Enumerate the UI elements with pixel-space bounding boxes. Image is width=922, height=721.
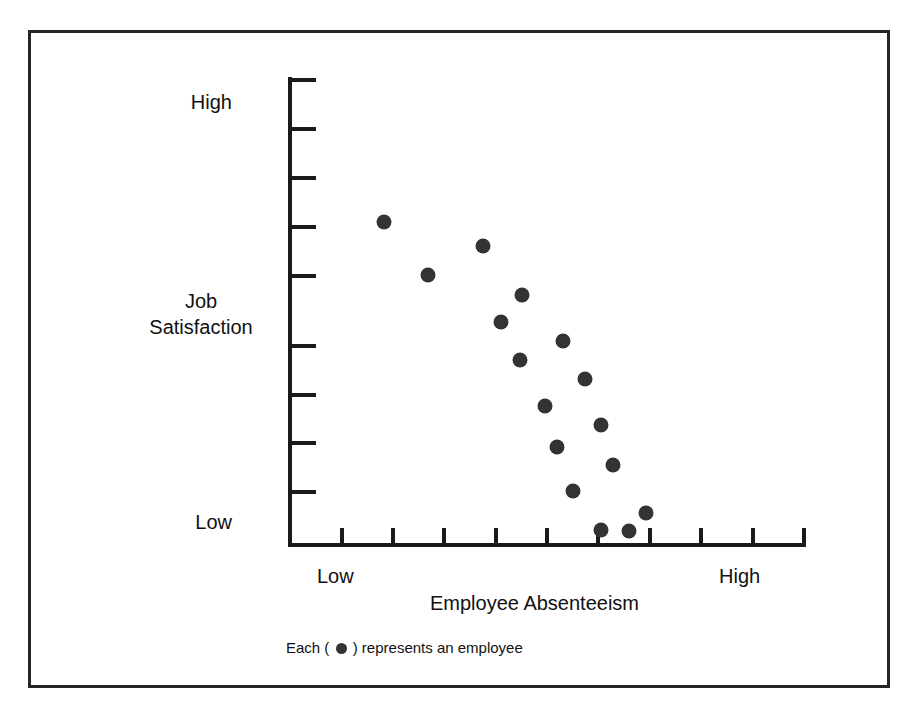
figure-root: High Low Job Satisfaction Low High Emplo… bbox=[0, 0, 922, 721]
figure-border-frame bbox=[28, 30, 890, 688]
